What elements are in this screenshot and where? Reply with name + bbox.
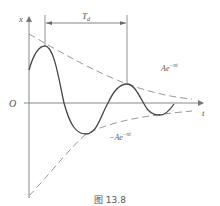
- lower-envelope-curve: [29, 111, 192, 196]
- damped-oscillation-curve: [29, 46, 174, 134]
- lower-envelope-label: −Ae−nt: [109, 131, 131, 142]
- x-axis-label: t: [202, 108, 205, 118]
- origin-label: O: [9, 98, 16, 109]
- figure-caption: 图 13.8: [94, 195, 126, 205]
- period-label: Td: [82, 11, 91, 22]
- damped-oscillation-figure: x t O Td Ae−nt −Ae−nt 图 13.8: [0, 0, 220, 206]
- upper-envelope-label: Ae−nt: [160, 62, 178, 73]
- y-axis-label: x: [18, 14, 23, 24]
